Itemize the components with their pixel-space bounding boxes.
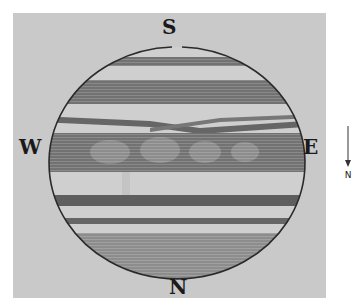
compass-label-west: W xyxy=(19,137,41,157)
figure-plate: S W E N xyxy=(13,13,326,298)
equatorial-band xyxy=(40,133,320,172)
arrow-down-icon xyxy=(340,124,356,170)
oval-spot xyxy=(140,137,180,163)
compass-label-north: N xyxy=(169,277,187,297)
oval-spot xyxy=(189,141,221,163)
cropped-caption-text xyxy=(0,0,80,5)
north-equatorial-band xyxy=(40,195,320,206)
south-polar-thin-band xyxy=(40,57,320,66)
oval-spot xyxy=(90,140,130,164)
oval-spot xyxy=(231,142,259,162)
compass-label-east: E xyxy=(303,137,318,157)
north-orientation-indicator: N xyxy=(340,124,356,186)
planet-disk-drawing xyxy=(13,13,326,298)
light-streak xyxy=(122,172,130,196)
orientation-arrow-label: N xyxy=(340,170,356,180)
north-temperate-thin-band xyxy=(40,218,320,224)
compass-label-south: S xyxy=(162,17,176,37)
